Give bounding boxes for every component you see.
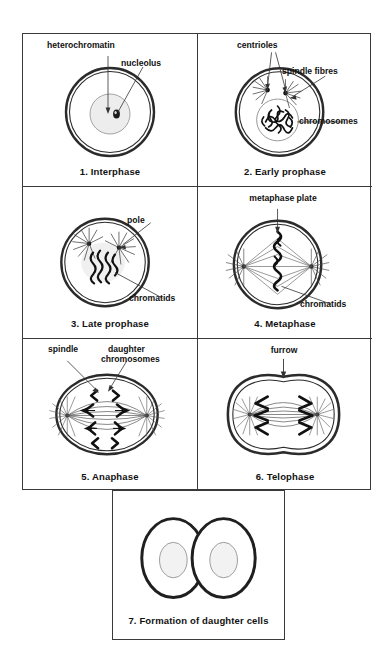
- panel-5-caption: 5. Anaphase: [23, 471, 197, 482]
- label-heterochromatin: heterochromatin: [47, 40, 115, 50]
- label-daughter: daughter: [108, 344, 145, 354]
- panel-6-caption: 6. Telophase: [198, 471, 372, 482]
- panel-4-caption: 4. Metaphase: [198, 318, 372, 329]
- label-spindle: spindle: [48, 344, 78, 354]
- panel-grid: heterochromatin nucleolus 1. Interphase: [22, 33, 371, 490]
- label-chromatids: chromatids: [129, 293, 175, 303]
- panel-1-caption: 1. Interphase: [23, 166, 197, 177]
- panel-7-daughter-cells: 7. Formation of daughter cells: [112, 490, 285, 640]
- panel-2-caption: 2. Early prophase: [198, 166, 372, 177]
- panel-7-caption: 7. Formation of daughter cells: [113, 615, 284, 626]
- label-chromosomes: chromosomes: [101, 354, 160, 364]
- label-centrioles: centrioles: [237, 40, 278, 50]
- label-pole: pole: [127, 215, 145, 225]
- panel-4-drawing: [198, 187, 372, 338]
- panel-3-drawing: [23, 187, 197, 338]
- panel-6-telophase: furrow 6. Telophase: [197, 338, 372, 491]
- label-spindle-fibres: spindle fibres: [282, 66, 338, 76]
- panel-1-interphase: heterochromatin nucleolus 1. Interphase: [23, 34, 197, 186]
- label-furrow: furrow: [244, 345, 324, 355]
- panel-2-early-prophase: centrioles spindle fibres chromosomes 2.…: [197, 34, 372, 186]
- label-chromatids: chromatids: [300, 299, 346, 309]
- panel-5-anaphase: spindle daughter chromosomes 5. Anaphase: [23, 338, 197, 491]
- panel-4-metaphase: metaphase plate chromatids 4. Metaphase: [197, 186, 372, 338]
- panel-2-drawing: [198, 34, 372, 186]
- label-metaphase-plate: metaphase plate: [228, 193, 338, 203]
- label-nucleolus: nucleolus: [121, 58, 161, 68]
- panel-6-drawing: [198, 339, 372, 491]
- mitosis-figure: heterochromatin nucleolus 1. Interphase: [0, 0, 389, 662]
- label-chromosomes: chromosomes: [299, 116, 358, 126]
- panel-3-caption: 3. Late prophase: [23, 318, 197, 329]
- panel-1-drawing: [23, 34, 197, 186]
- panel-3-late-prophase: pole chromatids 3. Late prophase: [23, 186, 197, 338]
